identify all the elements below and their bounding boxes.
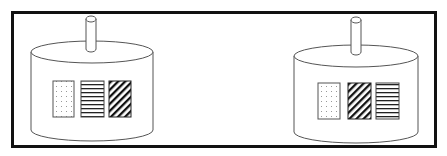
post bbox=[86, 19, 96, 52]
diagram bbox=[0, 0, 447, 156]
panel-dotted bbox=[318, 83, 340, 119]
panel-diagonal-stripes bbox=[109, 81, 131, 117]
panel-horizontal-stripes bbox=[376, 83, 399, 119]
post-top bbox=[86, 16, 96, 22]
post bbox=[351, 20, 361, 55]
post-top bbox=[351, 17, 361, 23]
panel-dotted bbox=[53, 81, 74, 117]
panel-horizontal-stripes bbox=[81, 81, 104, 117]
panel-diagonal-stripes bbox=[348, 83, 371, 119]
